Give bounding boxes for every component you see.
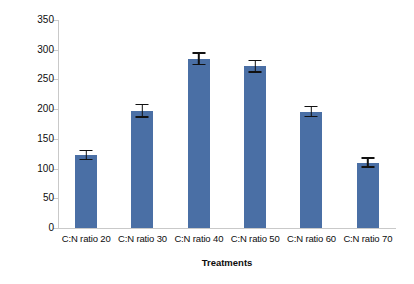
error-bar-cap-top — [192, 52, 205, 54]
x-tick-label: C:N ratio 20 — [58, 232, 114, 246]
error-bar — [80, 150, 93, 161]
error-bar-cap-bottom — [136, 116, 149, 118]
error-bar-cap-bottom — [361, 166, 374, 168]
bar[interactable] — [300, 112, 322, 228]
error-bar-cap-top — [136, 104, 149, 106]
x-axis-title: Treatments — [58, 256, 396, 270]
y-tick-label: 150 — [37, 134, 54, 144]
bar[interactable] — [357, 163, 379, 228]
bar[interactable] — [244, 66, 266, 228]
bar-group[interactable] — [227, 20, 283, 228]
y-tick-label: 250 — [37, 74, 54, 84]
y-tick-label: 200 — [37, 104, 54, 114]
x-tick-label: C:N ratio 70 — [340, 232, 396, 246]
error-bar — [136, 104, 149, 118]
error-bar-cap-top — [361, 157, 374, 159]
error-bar-cap-bottom — [249, 71, 262, 73]
bar-group[interactable] — [114, 20, 170, 228]
x-tick-label: C:N ratio 30 — [114, 232, 170, 246]
y-tick-label: 300 — [37, 45, 54, 55]
error-bar-cap-bottom — [305, 116, 318, 118]
error-bar — [361, 157, 374, 168]
y-tick-label: 50 — [43, 193, 54, 203]
bars-layer — [58, 20, 396, 228]
error-bar — [192, 52, 205, 65]
y-tick: 0 — [58, 228, 59, 229]
bar-group[interactable] — [283, 20, 339, 228]
y-tick-label: 100 — [37, 164, 54, 174]
plot-area: 050100150200250300350 — [58, 20, 396, 228]
y-tick-label: 0 — [48, 223, 54, 233]
error-bar — [305, 106, 318, 118]
bar[interactable] — [131, 111, 153, 228]
bar-group[interactable] — [340, 20, 396, 228]
y-tick-label: 350 — [37, 15, 54, 25]
x-tick-label: C:N ratio 60 — [283, 232, 339, 246]
bar[interactable] — [75, 155, 97, 228]
error-bar-cap-bottom — [192, 64, 205, 66]
x-axis-tick-labels: C:N ratio 20C:N ratio 30C:N ratio 40C:N … — [58, 232, 396, 248]
error-bar — [249, 60, 262, 73]
bar[interactable] — [188, 59, 210, 228]
bar-group[interactable] — [171, 20, 227, 228]
x-axis-line — [58, 228, 396, 229]
error-bar-cap-top — [80, 150, 93, 152]
error-bar-cap-bottom — [80, 159, 93, 161]
bar-chart: Total Earthworm Biomass(g) / treatment 0… — [0, 0, 414, 284]
error-bar-cap-top — [305, 106, 318, 108]
x-tick-label: C:N ratio 40 — [171, 232, 227, 246]
bar-group[interactable] — [58, 20, 114, 228]
error-bar-cap-top — [249, 60, 262, 62]
x-tick-label: C:N ratio 50 — [227, 232, 283, 246]
